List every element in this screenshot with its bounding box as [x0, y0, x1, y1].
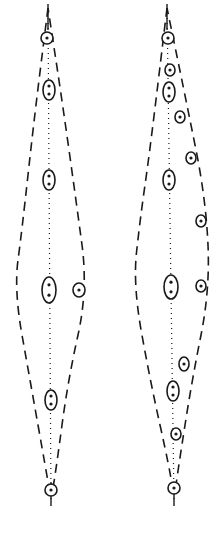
- dot: [47, 294, 50, 297]
- dot: [166, 36, 169, 39]
- dot: [167, 94, 170, 97]
- dot: [169, 281, 172, 284]
- dot: [178, 115, 181, 118]
- diagram-canvas: [0, 0, 222, 538]
- dot: [47, 174, 50, 177]
- spindle-diagram: [0, 0, 222, 538]
- dot: [77, 288, 80, 291]
- right-spindle-outline: [135, 8, 208, 493]
- body-ellipse: [167, 381, 179, 401]
- dot: [171, 393, 174, 396]
- dot: [199, 284, 202, 287]
- body-ellipse: [43, 80, 55, 100]
- body-ellipse: [42, 277, 56, 303]
- dot: [189, 156, 192, 159]
- dot: [174, 432, 177, 435]
- dot: [47, 84, 50, 87]
- dot: [49, 488, 52, 491]
- body-ellipse: [163, 82, 175, 102]
- dot: [47, 283, 50, 286]
- dot: [167, 182, 170, 185]
- dot: [49, 394, 52, 397]
- dot: [167, 174, 170, 177]
- dot: [47, 92, 50, 95]
- dot: [45, 36, 48, 39]
- dot: [47, 182, 50, 185]
- dot: [182, 362, 185, 365]
- dot: [49, 402, 52, 405]
- dot: [199, 219, 202, 222]
- body-ellipse: [43, 170, 55, 190]
- dot: [171, 385, 174, 388]
- body-ellipse: [45, 390, 57, 410]
- dot: [169, 290, 172, 293]
- body-ellipse: [164, 275, 178, 299]
- body-ellipse: [163, 170, 175, 190]
- dot: [167, 86, 170, 89]
- dot: [172, 486, 175, 489]
- dot: [168, 68, 171, 71]
